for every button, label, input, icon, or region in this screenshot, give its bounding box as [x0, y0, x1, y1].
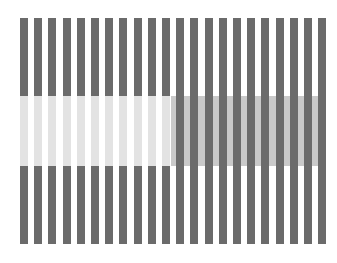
stripe-upper [91, 18, 99, 96]
stripe-lower [134, 166, 142, 244]
left-gray-patch [77, 96, 85, 166]
stripe-lower [162, 166, 170, 244]
stripe [290, 18, 298, 244]
stripe-upper [105, 18, 113, 96]
stripe-upper [119, 18, 127, 96]
stripe-upper [20, 18, 28, 96]
stripe [261, 18, 269, 244]
stripe-upper [162, 18, 170, 96]
stripe-lower [119, 166, 127, 244]
stripe [304, 18, 312, 244]
stripe [205, 18, 213, 244]
illusion-canvas [0, 0, 337, 263]
stripe [176, 18, 184, 244]
left-gray-patch [134, 96, 142, 166]
stripe-lower [63, 166, 71, 244]
right-gray-patch [269, 96, 276, 166]
right-gray-patch [198, 96, 205, 166]
left-gray-patch [34, 96, 42, 166]
left-gray-patch [119, 96, 127, 166]
stripe-lower [48, 166, 56, 244]
left-gray-patch [91, 96, 99, 166]
stripe-upper [34, 18, 42, 96]
left-gray-patch [48, 96, 56, 166]
left-gray-patch [162, 96, 170, 166]
left-gray-patch [20, 96, 28, 166]
left-gray-patch [63, 96, 71, 166]
stripe-upper [48, 18, 56, 96]
stripe-lower [77, 166, 85, 244]
stripe-lower [34, 166, 42, 244]
stripe-upper [134, 18, 142, 96]
left-gray-patch [148, 96, 156, 166]
stripe [247, 18, 255, 244]
stripe [318, 18, 326, 244]
stripe-lower [20, 166, 28, 244]
right-gray-patch [171, 96, 176, 166]
stripe-lower [91, 166, 99, 244]
stripe-lower [105, 166, 113, 244]
left-gray-patch [105, 96, 113, 166]
stripe [219, 18, 227, 244]
stripe [233, 18, 241, 244]
stripe [276, 18, 284, 244]
stripe [190, 18, 198, 244]
stripe-lower [148, 166, 156, 244]
stripe-upper [77, 18, 85, 96]
stripe-upper [148, 18, 156, 96]
stripe-upper [63, 18, 71, 96]
